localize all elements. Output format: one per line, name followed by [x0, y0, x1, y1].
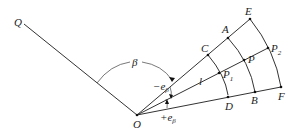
beta-arrowhead: [169, 77, 175, 82]
arc-AB: [228, 38, 255, 92]
ray-OE: [137, 19, 250, 115]
point-P1: [218, 72, 221, 75]
point-P2: [267, 47, 270, 50]
label-B: B: [251, 94, 258, 106]
point-D: [227, 96, 230, 99]
point-A: [227, 37, 230, 40]
label-A: A: [221, 23, 229, 35]
label-F: F: [277, 90, 285, 102]
label-D: D: [224, 100, 233, 112]
label-minus-eps: −eβ: [153, 80, 169, 94]
geometry-diagram: Q O E A C P2 P P1 F B D l β −eβ +eβ: [0, 0, 293, 131]
point-F: [280, 86, 283, 89]
label-plus-eps: +eβ: [160, 111, 176, 125]
ray-OQ: [24, 24, 137, 115]
plus-eps-arrowhead: [165, 99, 169, 104]
label-P: P: [247, 53, 255, 65]
label-beta: β: [131, 56, 138, 68]
point-C: [207, 54, 210, 57]
point-E: [249, 18, 252, 21]
label-l: l: [199, 75, 202, 87]
label-E: E: [244, 5, 252, 17]
point-O: [136, 114, 139, 117]
point-B: [254, 91, 257, 94]
label-Q: Q: [14, 16, 22, 28]
label-O: O: [133, 118, 141, 130]
point-P: [243, 59, 246, 62]
label-C: C: [201, 42, 209, 54]
